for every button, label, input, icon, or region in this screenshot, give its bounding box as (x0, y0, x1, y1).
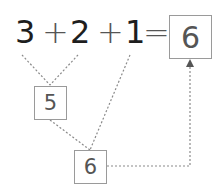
line-3-to-5 (22, 55, 50, 85)
second-sum-value: 6 (84, 155, 97, 179)
term-3: 3 (15, 14, 35, 50)
term-2: 2 (70, 14, 90, 50)
second-sum-box: 6 (74, 150, 107, 184)
line-5-to-6 (50, 120, 90, 150)
first-sum-box: 5 (34, 86, 67, 120)
first-sum-value: 5 (44, 91, 57, 115)
arrowhead-icon (186, 59, 194, 67)
answer-value: 6 (181, 20, 200, 55)
answer-box: 6 (169, 15, 212, 59)
line-1-to-6 (90, 55, 130, 150)
plus-operator-1: + (42, 14, 69, 50)
equals-sign: = (143, 14, 170, 50)
plus-operator-2: + (97, 14, 124, 50)
line-2-to-5 (50, 55, 78, 85)
